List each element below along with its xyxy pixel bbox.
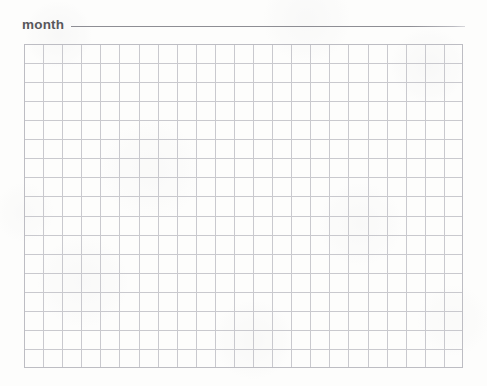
month-fill-in-rule[interactable]	[71, 26, 465, 27]
grid-vertical-lines	[44, 44, 445, 368]
grid-horizontal-lines	[24, 64, 463, 350]
header-row: month	[22, 17, 465, 35]
grid-outline	[25, 45, 463, 368]
month-label: month	[22, 17, 64, 33]
worksheet-page: month	[0, 0, 487, 386]
grid-area[interactable]	[24, 44, 463, 368]
grid-lines	[24, 44, 463, 368]
